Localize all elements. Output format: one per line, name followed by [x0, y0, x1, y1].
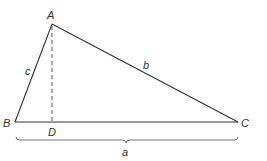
- diagram-svg: A B C D c b a: [0, 0, 267, 161]
- side-label-c: c: [25, 65, 31, 77]
- side-label-b: b: [143, 59, 149, 71]
- vertex-label-c: C: [241, 117, 249, 129]
- side-b-line: [52, 24, 238, 122]
- vertex-label-b: B: [3, 117, 10, 129]
- vertex-label-d: D: [48, 126, 56, 138]
- side-label-a: a: [122, 146, 128, 158]
- triangle-diagram: A B C D c b a: [0, 0, 267, 161]
- side-c-line: [15, 24, 52, 122]
- vertex-label-a: A: [46, 9, 54, 21]
